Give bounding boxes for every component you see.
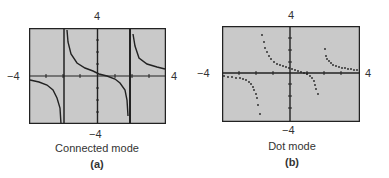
plot-dot-mode [222, 26, 360, 122]
sublabel: (a) [0, 158, 194, 170]
x-min-label: −4 [197, 67, 210, 79]
y-max-label: 4 [288, 9, 294, 21]
panel-connected-mode: 4 −4 4 −4 Connected mode (a) [0, 0, 194, 178]
x-max-label: 4 [171, 70, 177, 82]
x-max-label: 4 [365, 67, 371, 79]
y-min-label: −4 [89, 128, 102, 140]
x-min-label: −4 [7, 70, 20, 82]
caption: Dot mode [195, 140, 389, 152]
sublabel: (b) [195, 156, 389, 168]
y-max-label: 4 [94, 10, 100, 22]
plot-connected-mode [29, 28, 166, 124]
y-min-label: −4 [282, 124, 295, 136]
caption: Connected mode [0, 142, 194, 154]
panel-dot-mode: 4 −4 4 −4 [195, 0, 389, 178]
